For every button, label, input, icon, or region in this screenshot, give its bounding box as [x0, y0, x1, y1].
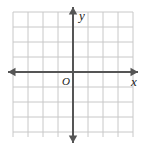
coordinate-plane-figure: y x O	[0, 0, 142, 148]
x-axis-label: x	[130, 74, 137, 89]
y-axis-label: y	[77, 8, 85, 23]
origin-label: O	[62, 75, 70, 87]
coordinate-plane-canvas: y x O	[0, 0, 142, 148]
figure-background	[0, 0, 142, 148]
